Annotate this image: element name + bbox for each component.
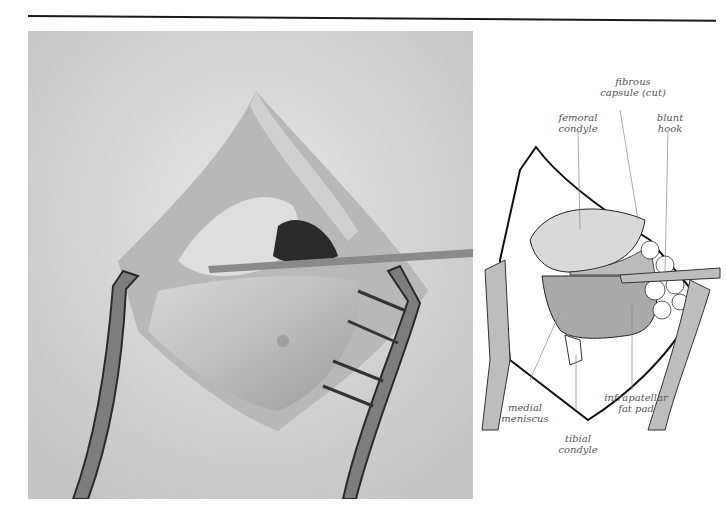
label-fibrous-capsule: fibrous capsule (cut) <box>588 76 678 98</box>
label-femoral-condyle: femoral condyle <box>548 112 608 134</box>
label-tibial-condyle: tibial condyle <box>553 433 603 455</box>
surgical-photograph <box>28 31 473 499</box>
label-infrapatellar-fat-pad: infrapatellar fat pad <box>596 392 676 414</box>
top-rule <box>28 15 716 22</box>
label-medial-meniscus: medial meniscus <box>495 402 555 424</box>
tissue-nodule <box>277 335 289 347</box>
anatomical-diagram: fibrous capsule (cut) femoral condyle bl… <box>470 40 726 480</box>
medial-meniscus-shape <box>542 276 657 338</box>
label-blunt-hook: blunt hook <box>645 112 695 134</box>
